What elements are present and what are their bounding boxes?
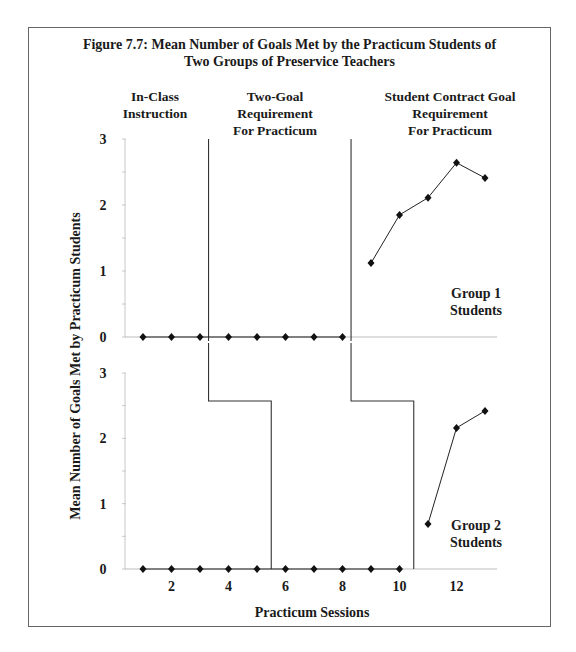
data-point-diamond [168, 565, 175, 573]
data-point-diamond [282, 333, 289, 341]
data-point-diamond [197, 565, 204, 573]
data-point-diamond [311, 333, 318, 341]
x-tick-label: 12 [450, 579, 464, 594]
data-point-diamond [368, 565, 375, 573]
data-point-diamond [168, 333, 175, 341]
y-tick-label: 0 [100, 330, 107, 345]
x-tick-label: 8 [339, 579, 346, 594]
data-point-diamond [225, 333, 232, 341]
y-tick-label: 2 [100, 431, 107, 446]
data-point-diamond [339, 333, 346, 341]
data-point-diamond [282, 565, 289, 573]
data-point-diamond [197, 333, 204, 341]
x-tick-label: 2 [168, 579, 175, 594]
phase-change-lines [209, 139, 414, 569]
group-1-label-line-1: Group 1 [451, 286, 501, 301]
data-point-diamond [254, 565, 261, 573]
x-tick-label: 4 [225, 579, 232, 594]
phase-change-step-line [209, 343, 272, 569]
group-2-label-line-2: Students [450, 535, 503, 550]
x-tick-label: 10 [393, 579, 407, 594]
plot-area: 0123012324681012 Group 1 Students Group … [0, 0, 576, 652]
axes [122, 139, 497, 569]
x-tick-label: 6 [282, 579, 289, 594]
data-series [140, 159, 489, 573]
data-point-diamond [225, 565, 232, 573]
y-tick-label: 3 [100, 132, 107, 147]
data-point-diamond [368, 259, 375, 267]
group-1-label-line-2: Students [450, 303, 503, 318]
data-point-diamond [140, 333, 147, 341]
data-point-diamond [254, 333, 261, 341]
y-tick-label: 2 [100, 198, 107, 213]
data-point-diamond [140, 565, 147, 573]
data-point-diamond [482, 407, 489, 415]
data-point-diamond [482, 174, 489, 182]
y-tick-label: 3 [100, 366, 107, 381]
data-point-diamond [453, 424, 460, 432]
data-point-diamond [396, 565, 403, 573]
data-point-diamond [425, 520, 432, 528]
phase-change-step-line [351, 343, 414, 569]
data-point-diamond [396, 211, 403, 219]
group-2-label-line-1: Group 2 [451, 518, 501, 533]
y-tick-label: 0 [100, 562, 107, 577]
y-tick-label: 1 [100, 264, 107, 279]
y-tick-label: 1 [100, 497, 107, 512]
data-line [371, 163, 485, 263]
data-point-diamond [311, 565, 318, 573]
data-point-diamond [339, 565, 346, 573]
tick-labels: 0123012324681012 [100, 132, 464, 594]
